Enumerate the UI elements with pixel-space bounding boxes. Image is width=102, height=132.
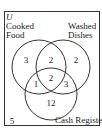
set-label-line: Dishes	[68, 31, 96, 40]
set-label-washed-dishes: Washed Dishes	[68, 22, 96, 40]
circle-cooked-food	[12, 40, 66, 94]
region-washed-only: 2	[74, 56, 79, 65]
region-all-three: 2	[49, 74, 54, 83]
region-cooked-washed: 2	[49, 56, 54, 65]
region-cash-only: 12	[47, 99, 56, 108]
region-cooked-cash: 1	[34, 80, 39, 89]
set-label-cash-register: Cash Register	[55, 116, 102, 125]
region-washed-cash: 3	[64, 80, 69, 89]
region-outside: 5	[10, 117, 15, 126]
venn-diagram	[0, 0, 102, 132]
region-cooked-only: 3	[24, 56, 29, 65]
set-label-line: Food	[6, 31, 34, 40]
set-label-cooked-food: Cooked Food	[6, 22, 34, 40]
